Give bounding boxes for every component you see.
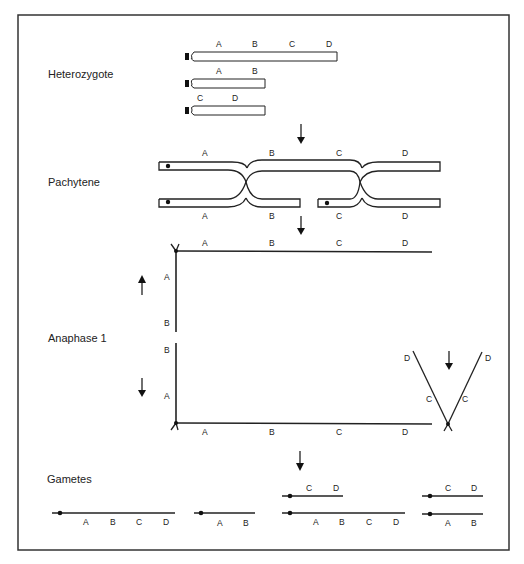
gene-label: D [326,39,332,49]
figure-frame [18,15,509,550]
arrow-up-icon [138,275,146,295]
chromosome-cd [191,106,265,115]
gene-label: C [445,483,451,493]
gene-label: A [164,391,170,401]
gene-label: B [269,211,275,221]
arrow-down-icon [297,216,305,235]
gene-label: A [216,39,222,49]
gene-label: B [252,66,258,76]
chromosome-ab [191,79,265,88]
stage-label-gametes: Gametes [47,473,92,485]
centromere-icon [185,80,189,87]
gene-label: B [339,517,345,527]
gene-label: D [333,483,339,493]
gene-label: C [289,39,295,49]
arrow-down-icon [138,378,146,397]
gene-label: D [393,517,399,527]
stage-label-pachytene: Pachytene [48,176,100,188]
centromere-icon [166,164,170,168]
gene-label: D [232,93,238,103]
gene-label: A [83,517,89,527]
stage-label-anaphase: Anaphase 1 [48,332,107,344]
gene-label: A [164,272,170,282]
gene-label: A [202,238,208,248]
chromosome-abcd [191,52,337,61]
centromere-icon [166,200,170,204]
gene-label: C [197,93,203,103]
heterozygote-group: A B C D A B C D [185,39,337,115]
gene-label: B [164,345,170,355]
gene-label: A [202,211,208,221]
gene-label: C [336,427,342,437]
centromere-icon [185,53,189,60]
arrow-down-icon [297,124,305,144]
pachytene-cross [159,160,440,207]
gene-label: B [269,148,275,158]
stage-label-heterozygote: Heterozygote [48,68,113,80]
gene-label: A [202,148,208,158]
gene-label: C [136,517,142,527]
gene-label: D [402,238,408,248]
gene-label: D [485,353,491,363]
gene-label: A [313,517,319,527]
gene-label: B [164,318,170,328]
gene-label: B [110,517,116,527]
gene-label: B [269,238,275,248]
gene-label: D [402,211,408,221]
gene-label: D [471,483,477,493]
gene-label: B [471,518,477,528]
gene-label: C [426,394,432,404]
gene-label: D [402,148,408,158]
gene-label: C [336,238,342,248]
centromere-icon [325,201,329,205]
gene-label: C [306,483,312,493]
arrow-down-icon [445,351,453,370]
centromere-icon [185,107,189,114]
gene-label: D [404,353,410,363]
anaphase-configuration [171,244,482,431]
gene-label: A [216,66,222,76]
arrow-down-icon [296,451,304,471]
gene-label: B [269,427,275,437]
gene-label: C [462,394,468,404]
translocation-diagram: Heterozygote A B C D A B C D Pachytene [0,0,524,564]
gene-label: B [243,518,249,528]
gametes-group: A B C D A B C D A B C D C D A B [52,483,483,528]
gene-label: D [402,427,408,437]
gene-label: D [163,517,169,527]
gene-label: C [336,211,342,221]
gene-label: C [366,517,372,527]
gene-label: A [217,518,223,528]
gene-label: B [252,39,258,49]
gene-label: A [202,427,208,437]
gene-label: A [445,518,451,528]
gene-label: C [336,148,342,158]
